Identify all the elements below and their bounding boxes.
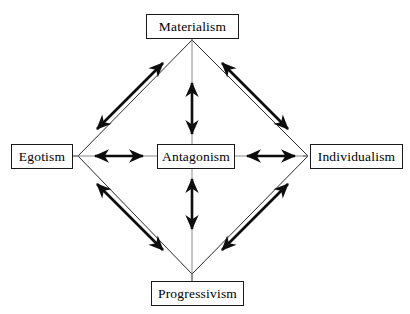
node-progressivism-label: Progressivism [158, 287, 237, 301]
arrow-top-left-diagonal [97, 63, 163, 129]
arrow-bottom-right-diagonal [222, 184, 288, 250]
node-individualism: Individualism [310, 144, 403, 169]
node-progressivism: Progressivism [151, 281, 244, 306]
node-egotism: Egotism [11, 144, 73, 169]
node-antagonism-label: Antagonism [162, 150, 230, 164]
diagram-canvas: Materialism Egotism Antagonism Individua… [0, 0, 410, 314]
node-materialism-label: Materialism [159, 20, 226, 34]
arrow-bottom-left-diagonal [97, 184, 163, 250]
node-antagonism: Antagonism [157, 144, 235, 169]
node-individualism-label: Individualism [318, 150, 396, 164]
node-egotism-label: Egotism [19, 150, 65, 164]
arrow-top-right-diagonal [222, 63, 288, 129]
node-materialism: Materialism [146, 14, 239, 39]
